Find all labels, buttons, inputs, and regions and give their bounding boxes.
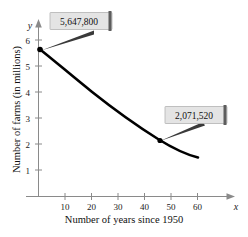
data-point-dot-2 [157, 138, 162, 143]
callout-pointer-2 [160, 122, 205, 141]
callout-label-2: 2,071,520 [175, 111, 213, 121]
x-tick-label-30: 30 [114, 202, 124, 212]
y-axis-title: Number of farms (in millions) [11, 20, 22, 200]
chart-plot-area: 1 2 3 4 5 6 10 20 30 40 50 60 y x 5,647,… [0, 0, 248, 237]
y-axis-symbol: y [27, 20, 33, 31]
data-point-dot-1 [37, 47, 43, 53]
y-tick-label-5: 5 [26, 62, 31, 72]
callout-shadow-2 [224, 105, 227, 125]
callout-shadow-1 [109, 11, 112, 31]
x-axis-symbol: x [233, 201, 239, 212]
farms-decay-chart: 1 2 3 4 5 6 10 20 30 40 50 60 y x 5,647,… [0, 0, 248, 237]
x-tick-label-10: 10 [61, 202, 71, 212]
y-tick-label-2: 2 [26, 140, 31, 150]
x-tick-label-50: 50 [167, 202, 177, 212]
x-axis-title: Number of years since 1950 [0, 214, 248, 225]
farms-decay-curve [40, 49, 199, 158]
x-tick-label-60: 60 [193, 202, 203, 212]
y-tick-label-4: 4 [26, 88, 31, 98]
callout-label-1: 5,647,800 [60, 17, 98, 27]
callout-pointer-1 [41, 31, 94, 51]
x-tick-label-40: 40 [140, 202, 150, 212]
x-tick-label-20: 20 [87, 202, 97, 212]
y-tick-label-1: 1 [26, 166, 31, 176]
x-axis-arrow-icon [227, 193, 236, 200]
y-tick-label-6: 6 [26, 36, 31, 46]
y-axis-arrow-icon [35, 19, 42, 28]
y-tick-label-3: 3 [26, 114, 31, 124]
